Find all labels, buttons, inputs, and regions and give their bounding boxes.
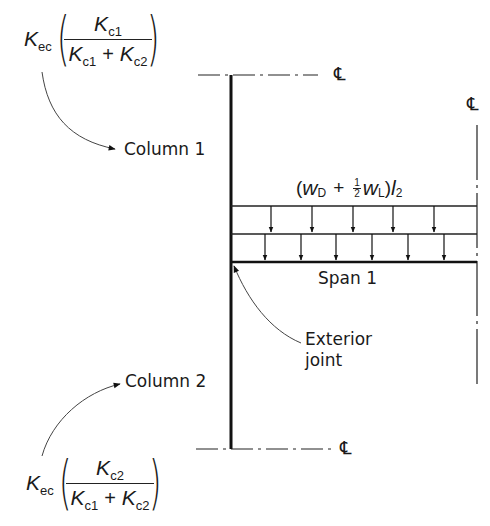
column-2-stiffness-formula: Kec ( Kc2 Kc1+Kc2 ) [26, 454, 166, 512]
span-1-label: Span 1 [318, 270, 377, 287]
centerline-symbol-right: ℄ [467, 95, 479, 113]
column-1-stiffness-formula: Kec ( Kc1 Kc1+Kc2 ) [24, 10, 164, 68]
centerline-symbol-top: ℄ [334, 65, 346, 83]
live-load-arrows [265, 234, 444, 260]
load-label: ( wD + 12 wL ) l2 [296, 176, 402, 200]
exterior-joint-label-line-2: joint [305, 352, 342, 369]
exterior-joint-label-line-1: Exterior [305, 331, 372, 348]
leader-arrow-column-1 [42, 72, 115, 149]
close-paren: ) [147, 10, 159, 68]
one-half: 12 [353, 178, 361, 199]
fraction: Kc2 Kc1+Kc2 [70, 456, 149, 510]
open-paren: ( [57, 10, 69, 68]
frame-drawing [0, 0, 490, 526]
column-2-label: Column 2 [125, 373, 206, 390]
open-paren: ( [59, 454, 71, 512]
column-1-label: Column 1 [124, 141, 205, 158]
k-ec: Kec [26, 471, 54, 495]
fraction: Kc1 Kc1+Kc2 [68, 12, 147, 66]
leader-arrow-joint [234, 266, 301, 343]
dead-load-arrows [271, 206, 434, 232]
k-ec: Kec [24, 27, 52, 51]
leader-arrow-column-2 [42, 384, 120, 456]
centerline-symbol-bottom: ℄ [340, 439, 352, 457]
close-paren: ) [149, 454, 161, 512]
